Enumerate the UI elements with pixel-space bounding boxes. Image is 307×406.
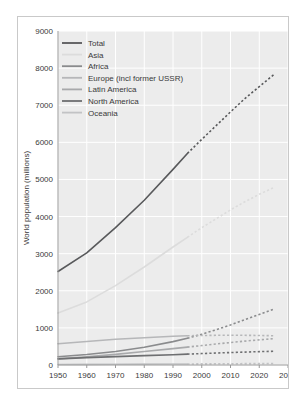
figure: 0100020003000400050006000700080009000 19… [0, 0, 307, 406]
world-population-line-chart: 0100020003000400050006000700080009000 19… [18, 17, 288, 388]
y-axis-title: World population (millions) [22, 151, 31, 245]
y-tick-label: 7000 [35, 101, 53, 110]
y-tick-label: 9000 [35, 27, 53, 36]
x-tick-label: 2000 [193, 371, 211, 380]
x-tick-label: 1990 [164, 371, 182, 380]
y-tick-label: 6000 [35, 138, 53, 147]
legend-label: Latin America [88, 85, 137, 94]
x-tick-label: 1970 [107, 371, 125, 380]
x-tick-label: 2030 [279, 371, 288, 380]
y-tick-label: 8000 [35, 64, 53, 73]
y-tick-label: 5000 [35, 175, 53, 184]
y-axis-label: World population (millions) [22, 151, 31, 245]
x-tick-label: 1960 [78, 371, 96, 380]
y-tick-label: 2000 [35, 287, 53, 296]
series-oceania [58, 364, 274, 365]
chart-frame: 0100020003000400050006000700080009000 19… [17, 16, 289, 389]
legend-label: Africa [88, 62, 109, 71]
legend-label: North America [88, 97, 139, 106]
legend-label: Europe (incl former USSR) [88, 74, 183, 83]
x-tick-label: 2020 [250, 371, 268, 380]
legend-label: Total [88, 39, 105, 48]
y-tick-label: 1000 [35, 324, 53, 333]
legend-label: Oceania [88, 109, 118, 118]
x-tick-label: 1950 [49, 371, 67, 380]
x-tick-label: 1980 [135, 371, 153, 380]
y-axis-ticks: 0100020003000400050006000700080009000 [35, 27, 53, 370]
x-tick-label: 2010 [222, 371, 240, 380]
y-tick-label: 4000 [35, 213, 53, 222]
y-tick-label: 0 [49, 361, 54, 370]
legend-label: Asia [88, 51, 104, 60]
y-tick-label: 3000 [35, 250, 53, 259]
